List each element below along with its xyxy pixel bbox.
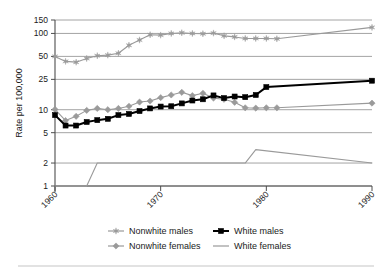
data-point-square (253, 92, 258, 97)
data-point-square (200, 97, 205, 102)
y-tick-label: 5 (43, 128, 48, 138)
data-point-square (95, 118, 100, 123)
legend-label: Nonwhite females (129, 241, 201, 251)
data-point-square (116, 113, 121, 118)
y-tick-label: 50 (39, 51, 49, 61)
y-tick-label: 2 (43, 158, 48, 168)
data-point-square (232, 94, 237, 99)
legend-label: White females (234, 241, 292, 251)
y-tick-label: 150 (34, 15, 48, 25)
y-tick-label: 25 (39, 74, 49, 84)
data-point-square (158, 104, 163, 109)
data-point-square (179, 101, 184, 106)
data-point-square (63, 123, 68, 128)
data-point-square (74, 123, 79, 128)
legend-label: White males (234, 226, 284, 236)
data-point-square (84, 120, 89, 125)
data-point-square (370, 78, 375, 83)
data-point-square (148, 106, 153, 111)
y-axis-title-text: Rate per 100,000 (14, 68, 24, 138)
legend-label: Nonwhite males (129, 226, 194, 236)
data-point-square (105, 116, 110, 121)
data-point-square (137, 109, 142, 114)
data-point-square (211, 93, 216, 98)
data-point-square (264, 85, 269, 90)
data-point-square (222, 96, 227, 101)
data-point-square (169, 104, 174, 109)
chart-background (0, 0, 392, 273)
line-chart-canvas: 150100502510521 1960197019801990 Rate pe… (0, 0, 392, 273)
data-point-square (243, 95, 248, 100)
y-tick-label: 100 (34, 28, 48, 38)
y-tick-label: 10 (39, 105, 49, 115)
data-point-square (190, 98, 195, 103)
y-axis-title: Rate per 100,000 (14, 68, 24, 138)
y-tick-label: 1 (43, 181, 48, 191)
data-point-square (53, 113, 58, 118)
data-point-square (126, 111, 131, 116)
chart-figure: 150100502510521 1960197019801990 Rate pe… (0, 0, 392, 273)
data-point-square (219, 229, 224, 234)
